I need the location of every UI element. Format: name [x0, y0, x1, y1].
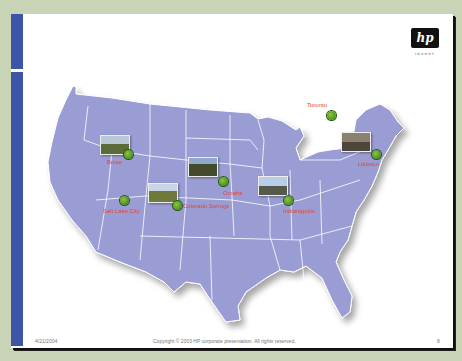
city-label-toronto: Toronto — [307, 102, 327, 108]
location-dot-salt-lake-city[interactable] — [120, 196, 129, 205]
site-photo — [148, 183, 178, 203]
location-dot-toronto[interactable] — [327, 111, 336, 120]
city-label-omaha: Omaha — [223, 190, 243, 196]
location-dot-indianapolis[interactable] — [284, 196, 293, 205]
city-label-indianapolis: Indianapolis — [283, 208, 315, 214]
site-photo — [341, 132, 371, 152]
location-dot-littleton[interactable] — [372, 150, 381, 159]
city-label-littleton: Littleton — [358, 161, 379, 167]
location-dot-omaha[interactable] — [219, 177, 228, 186]
city-label-boise: Boise — [107, 159, 122, 165]
city-label-colorado-springs: Colorado Springs — [183, 203, 229, 209]
site-photo — [258, 176, 288, 196]
location-dot-colorado-springs[interactable] — [173, 201, 182, 210]
location-dot-boise[interactable] — [124, 150, 133, 159]
city-label-salt-lake-city: Salt Lake City — [103, 208, 140, 214]
site-photo — [188, 157, 218, 177]
us-map — [0, 0, 462, 361]
